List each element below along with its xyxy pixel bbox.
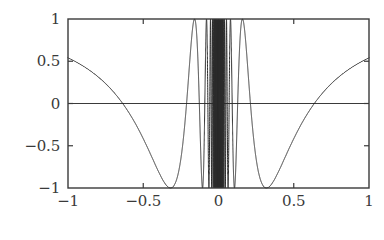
- y-tick-label: −0.5: [24, 138, 60, 153]
- figure-container: −1−0.500.51 −1−0.500.51: [0, 0, 384, 240]
- y-tick-label: 0: [51, 96, 60, 111]
- x-tick-label: 1: [364, 194, 373, 209]
- x-tick-label: 0.5: [282, 194, 305, 209]
- y-tick-label: 1: [51, 12, 60, 27]
- x-tick-label: −1: [57, 194, 79, 209]
- y-tick-label: 0.5: [37, 54, 60, 69]
- x-tick-label: −0.5: [125, 194, 161, 209]
- plot-area: [68, 19, 369, 188]
- x-tick-label: 0: [214, 194, 223, 209]
